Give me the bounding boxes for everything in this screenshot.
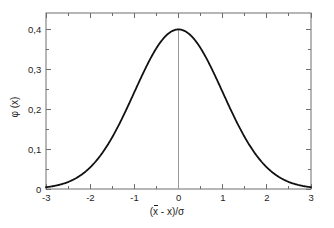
x-axis-title-mid: - (158, 206, 167, 217)
y-tick-label: 0,2 (28, 104, 41, 115)
y-axis-title: φ (x) (9, 97, 20, 118)
y-tick-label: 0,3 (28, 64, 41, 75)
x-bar-letter: x (153, 206, 158, 217)
gaussian-distribution-chart: -3-2-10123 00,10,20,30,4 φ (x) (x - x)/σ (0, 0, 334, 228)
x-bar-symbol: x (153, 206, 158, 217)
x-tick-label: -3 (42, 192, 50, 203)
x-axis-title-tail: )/σ (172, 206, 184, 217)
y-axis-title-wrap: φ (x) (2, 84, 26, 130)
y-tick-label: 0,1 (28, 144, 41, 155)
overbar (154, 205, 158, 206)
x-tick-label: 3 (309, 192, 314, 203)
x-axis-title: (x - x)/σ (0, 206, 334, 217)
x-tick-label: -2 (86, 192, 94, 203)
x-tick-label: 0 (176, 192, 181, 203)
x-tick-label: -1 (130, 192, 138, 203)
x-tick-label: 2 (264, 192, 269, 203)
y-tick-label: 0,4 (28, 24, 41, 35)
y-tick-label: 0 (36, 184, 41, 195)
x-tick-label: 1 (220, 192, 225, 203)
